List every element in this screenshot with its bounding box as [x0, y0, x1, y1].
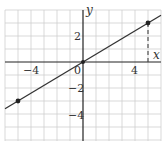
y-tick-neg4: −4 — [68, 109, 84, 122]
origin-label: 0 — [74, 64, 81, 77]
x-tick-neg4: −4 — [23, 64, 39, 77]
y-tick-2: 2 — [74, 30, 81, 43]
point-origin — [81, 60, 85, 64]
y-tick-neg2: −2 — [68, 82, 84, 95]
point-neg5-neg3 — [16, 99, 21, 104]
y-axis-label: y — [85, 3, 93, 17]
x-tick-4: 4 — [131, 64, 138, 77]
point-5-3 — [146, 21, 151, 26]
x-axis-label: x — [153, 48, 160, 62]
coordinate-plane: y x 0 −4 4 2 −2 −4 — [0, 0, 165, 153]
